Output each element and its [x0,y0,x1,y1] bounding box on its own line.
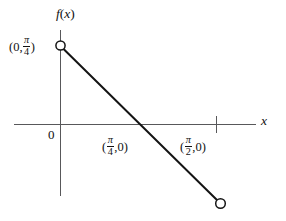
label-y-intercept-coordinate: (0,π4) [9,35,35,58]
paren-close: ) [124,140,128,154]
function-graph-figure: f(x) x 0 (0,π4) (π4,0) (π2,0) [0,0,286,221]
fraction-numerator: π [23,35,30,45]
label-x-intercept-coordinate: (π4,0) [102,135,128,158]
fraction-denominator: 2 [185,147,192,157]
fraction-numerator: π [185,135,192,145]
fraction-numerator: π [107,135,114,145]
fraction-denominator: 4 [107,147,114,157]
paren-open: ( [102,140,106,154]
paren-close: ) [202,140,206,154]
origin-label: 0 [48,128,55,141]
fraction-denominator: 4 [23,47,30,57]
fraction-pi-over-4: π4 [107,135,114,158]
paren-open: ( [180,140,184,154]
open-endpoint-right [216,199,226,209]
label-x-half-pi-coordinate: (π2,0) [180,135,206,158]
fraction-pi-over-2: π2 [185,135,192,158]
open-endpoint-y-intercept [56,41,65,50]
y-axis-label: f(x) [56,7,75,21]
fraction-pi-over-4: π4 [23,35,30,58]
paren-close: ) [31,40,35,54]
graph-canvas [0,0,286,221]
x-axis-label: x [261,114,267,128]
